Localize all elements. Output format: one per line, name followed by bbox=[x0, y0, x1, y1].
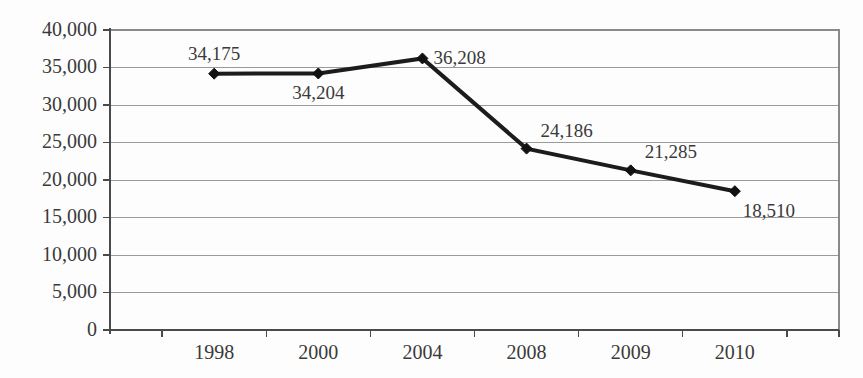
data-point-label: 36,208 bbox=[433, 47, 485, 68]
data-point-labels: 34,17534,20436,20824,18621,28518,510 bbox=[188, 43, 795, 221]
data-point-marker bbox=[729, 186, 740, 197]
x-axis-tick-label: 1998 bbox=[194, 341, 234, 363]
x-axis-tick-label: 2000 bbox=[298, 341, 338, 363]
y-axis-tick-label: 5,000 bbox=[52, 280, 97, 302]
x-axis-tick-label: 2009 bbox=[611, 341, 651, 363]
y-axis-tick-label: 35,000 bbox=[42, 55, 97, 77]
y-axis-tick-label: 30,000 bbox=[42, 93, 97, 115]
x-axis-tick-label: 2004 bbox=[402, 341, 442, 363]
y-axis-tick-label: 25,000 bbox=[42, 130, 97, 152]
data-point-label: 21,285 bbox=[645, 141, 697, 162]
data-point-label: 34,204 bbox=[292, 82, 345, 103]
x-axis-tick-label: 2010 bbox=[715, 341, 755, 363]
y-axis-tick-label: 0 bbox=[87, 318, 97, 340]
y-axis-tick-label: 40,000 bbox=[42, 18, 97, 40]
data-point-label: 18,510 bbox=[743, 200, 795, 221]
x-axis-tick-label: 2008 bbox=[507, 341, 547, 363]
chart-canvas: 05,00010,00015,00020,00025,00030,00035,0… bbox=[0, 0, 863, 378]
data-point-marker bbox=[313, 68, 324, 79]
data-point-label: 24,186 bbox=[541, 120, 593, 141]
data-point-marker bbox=[625, 165, 636, 176]
series-line bbox=[214, 58, 735, 191]
data-point-label: 34,175 bbox=[188, 43, 240, 64]
line-chart: 05,00010,00015,00020,00025,00030,00035,0… bbox=[0, 0, 863, 378]
data-series bbox=[214, 58, 735, 191]
y-axis: 05,00010,00015,00020,00025,00030,00035,0… bbox=[42, 18, 110, 340]
data-point-marker bbox=[209, 68, 220, 79]
y-axis-tick-label: 15,000 bbox=[42, 205, 97, 227]
y-axis-tick-label: 20,000 bbox=[42, 168, 97, 190]
x-axis: 199820002004200820092010 bbox=[110, 330, 839, 363]
y-axis-tick-label: 10,000 bbox=[42, 243, 97, 265]
